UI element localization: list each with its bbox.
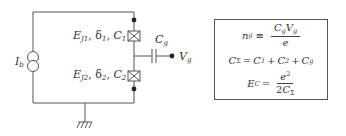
josephson-junction-2-icon (128, 71, 140, 81)
ground-icon (77, 122, 92, 128)
gate-terminal-dot (170, 54, 175, 59)
fraction: e2 2CΣ (276, 71, 295, 97)
gate-capacitor-label: Cg (155, 34, 168, 47)
current-source-icon (28, 52, 39, 72)
gate-capacitor-icon (152, 49, 156, 63)
fraction: CgVg e (271, 23, 300, 48)
equation-total-capacitance: CΣ = C1 + C2 + Cg (215, 55, 327, 66)
junction-1-label: EJ1, δ1, C1 (73, 30, 126, 43)
gate-voltage-label: Vg (179, 51, 191, 64)
junction-2-label: EJ2, δ2, C2 (73, 69, 126, 82)
josephson-junction-1-icon (128, 31, 140, 41)
current-source-label: Ib (15, 56, 24, 69)
node-dot-top (132, 18, 137, 23)
equation-gate-charge: ng ≡ CgVg e (215, 23, 327, 48)
equation-charging-energy: EC = e2 2CΣ (215, 71, 327, 97)
node-dot-bottom (132, 87, 137, 92)
equations-box: ng ≡ CgVg e CΣ = C1 + C2 + Cg EC = e2 2C… (214, 19, 328, 100)
